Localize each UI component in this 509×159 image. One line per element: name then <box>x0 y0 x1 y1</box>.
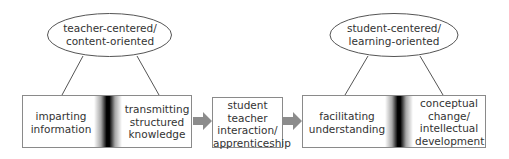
text-line: conceptual <box>415 97 483 110</box>
oval-label-line: content-oriented <box>55 35 165 48</box>
student-centered-continuum-box: facilitating understanding conceptual ch… <box>302 95 486 148</box>
text-line: structured <box>123 116 191 129</box>
text-line: development <box>415 135 483 148</box>
conceptual-change-text: conceptual change/ intellectual developm… <box>415 97 483 147</box>
teacher-centered-continuum-box: imparting information transmitting struc… <box>22 95 192 148</box>
student-teacher-interaction-box: student teacher interaction/ apprentices… <box>212 97 283 148</box>
gradient-divider <box>94 96 122 147</box>
text-line: interaction/ <box>213 124 282 137</box>
oval-label-line: teacher-centered/ <box>55 22 165 35</box>
text-line: change/ <box>415 110 483 123</box>
text-line: understanding <box>307 123 387 136</box>
teacher-centered-label: teacher-centered/ content-oriented <box>55 22 165 48</box>
text-line: information <box>25 123 97 136</box>
text-line: apprenticeship <box>213 137 282 150</box>
arrow-right-icon <box>283 112 302 130</box>
right-oval-connector-left <box>345 56 368 95</box>
gradient-divider <box>385 96 413 147</box>
oval-label-line: learning-oriented <box>339 35 449 48</box>
arrow-right-icon <box>193 112 212 130</box>
facilitating-understanding-text: facilitating understanding <box>307 110 387 135</box>
student-teacher-interaction-text: student teacher interaction/ apprentices… <box>213 99 282 149</box>
text-line: knowledge <box>123 128 191 141</box>
text-line: imparting <box>25 110 97 123</box>
oval-label-line: student-centered/ <box>339 22 449 35</box>
left-oval-connector-right <box>137 56 159 95</box>
right-oval-connector-right <box>420 56 443 95</box>
imparting-information-text: imparting information <box>25 110 97 135</box>
text-line: facilitating <box>307 110 387 123</box>
student-centered-label: student-centered/ learning-oriented <box>339 22 449 48</box>
text-line: intellectual <box>415 122 483 135</box>
text-line: transmitting <box>123 103 191 116</box>
left-oval-connector-left <box>62 56 83 95</box>
transmitting-structured-knowledge-text: transmitting structured knowledge <box>123 103 191 141</box>
text-line: teacher <box>213 112 282 125</box>
text-line: student <box>213 99 282 112</box>
